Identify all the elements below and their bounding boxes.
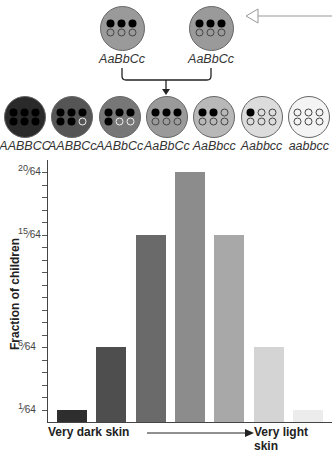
offspring-genotype-circle	[99, 96, 141, 138]
dominant-allele-dot	[79, 109, 87, 117]
dominant-allele-dot	[21, 109, 29, 117]
recessive-allele-dot	[257, 118, 265, 126]
allele-dots	[246, 109, 277, 126]
recessive-allele-dot	[304, 118, 312, 126]
x-axis-label-right: Very light skin	[254, 425, 332, 453]
x-axis-label-left: Very dark skin	[48, 425, 129, 439]
tick-numerator: 1	[18, 401, 23, 411]
recessive-allele-dot	[293, 109, 301, 117]
recessive-allele-dot	[210, 118, 218, 126]
y-axis-tick	[42, 322, 47, 323]
dominant-allele-dot	[151, 109, 159, 117]
dominant-allele-dot	[68, 109, 76, 117]
y-tick-label: 1⁄64	[18, 401, 36, 415]
dominant-allele-dot	[210, 109, 218, 117]
recessive-allele-dot	[79, 118, 87, 126]
recessive-allele-dot	[268, 118, 276, 126]
allele-dots	[104, 109, 135, 126]
recessive-allele-dot	[315, 109, 323, 117]
x-axis-line	[47, 422, 332, 423]
bar-AABbCc	[136, 235, 166, 423]
offspring-genotype-circle	[288, 96, 330, 138]
offspring-genotype-circle	[193, 96, 235, 138]
y-axis-tick	[42, 347, 47, 348]
dominant-allele-dot	[57, 109, 65, 117]
recessive-allele-dot	[151, 118, 159, 126]
dominant-allele-dot	[57, 118, 65, 126]
dominant-allele-dot	[10, 118, 18, 126]
y-axis-tick	[42, 260, 47, 261]
pointer-arrow-icon	[245, 8, 332, 28]
dominant-allele-dot	[115, 109, 123, 117]
bar-AABBCC	[57, 410, 87, 423]
gradient-arrow-icon	[147, 428, 255, 438]
y-axis-tick	[42, 397, 47, 398]
tick-denominator: 64	[25, 404, 36, 415]
recessive-allele-dot	[221, 118, 229, 126]
allele-dots	[10, 109, 41, 126]
y-axis-tick	[42, 210, 47, 211]
y-axis-tick	[42, 185, 47, 186]
y-axis-tick	[42, 360, 47, 361]
y-axis-tick	[42, 372, 47, 373]
tick-denominator: 64	[30, 166, 41, 177]
recessive-allele-dot	[246, 118, 254, 126]
y-axis-tick	[42, 285, 47, 286]
recessive-allele-dot	[173, 118, 181, 126]
bar-AaBbcc	[214, 235, 244, 423]
y-axis-tick	[42, 172, 47, 173]
allele-dots	[199, 109, 230, 126]
dominant-allele-dot	[32, 118, 40, 126]
recessive-allele-dot	[268, 109, 276, 117]
y-axis-tick	[42, 222, 47, 223]
dominant-allele-dot	[21, 118, 29, 126]
y-axis-line	[47, 160, 48, 422]
y-axis-tick	[42, 247, 47, 248]
allele-dots	[293, 109, 324, 126]
dominant-allele-dot	[162, 109, 170, 117]
recessive-allele-dot	[304, 109, 312, 117]
offspring-genotype-circle	[146, 96, 188, 138]
tick-denominator: 64	[30, 229, 41, 240]
y-axis-tick	[42, 272, 47, 273]
y-axis-label: Fraction of children	[8, 229, 22, 359]
recessive-allele-dot	[199, 118, 207, 126]
dominant-allele-dot	[246, 109, 254, 117]
recessive-allele-dot	[257, 109, 265, 117]
recessive-allele-dot	[293, 118, 301, 126]
bar-Aabbcc	[254, 347, 284, 422]
tick-numerator: 20	[18, 163, 28, 173]
offspring-genotype-circle	[4, 96, 46, 138]
recessive-allele-dot	[126, 118, 134, 126]
dominant-allele-dot	[104, 109, 112, 117]
offspring-genotype-circle	[51, 96, 93, 138]
offspring-genotype-circle	[241, 96, 283, 138]
allele-dots	[151, 109, 182, 126]
y-axis-tick	[42, 197, 47, 198]
y-tick-label: 20⁄64	[18, 163, 41, 177]
dominant-allele-dot	[104, 118, 112, 126]
y-axis-tick	[42, 235, 47, 236]
y-axis-tick	[42, 335, 47, 336]
y-axis-tick	[42, 385, 47, 386]
dominant-allele-dot	[32, 109, 40, 117]
recessive-allele-dot	[115, 118, 123, 126]
dominant-allele-dot	[126, 109, 134, 117]
dominant-allele-dot	[68, 118, 76, 126]
dominant-allele-dot	[173, 109, 181, 117]
tick-denominator: 64	[25, 341, 36, 352]
bar-AABBCc	[96, 347, 126, 422]
allele-dots	[57, 109, 88, 126]
bar-AaBbCc	[175, 172, 205, 422]
y-axis-tick	[42, 410, 47, 411]
dominant-allele-dot	[10, 109, 18, 117]
offspring-genotype-label: aabbcc	[269, 139, 332, 153]
recessive-allele-dot	[315, 118, 323, 126]
recessive-allele-dot	[162, 118, 170, 126]
y-axis-tick	[42, 297, 47, 298]
dominant-allele-dot	[199, 109, 207, 117]
y-axis-tick	[42, 310, 47, 311]
bar-aabbcc	[293, 410, 323, 423]
recessive-allele-dot	[221, 109, 229, 117]
